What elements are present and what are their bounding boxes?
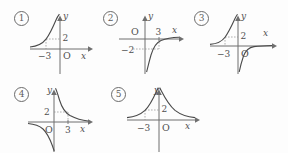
x-tick-label: −3 xyxy=(137,123,151,133)
figure-2: 2 O 3 −2 x y xyxy=(92,0,188,76)
y-tick-label: 2 xyxy=(63,33,69,43)
x-axis-label: x xyxy=(185,121,190,131)
figure-3-plot: 2 −3 O x y xyxy=(208,8,282,74)
figure-4: 4 2 O 3 x y xyxy=(0,76,100,153)
x-tick-label: −3 xyxy=(217,49,231,59)
y-tick-label: 2 xyxy=(162,104,168,114)
figure-3-marker: 3 xyxy=(194,11,209,26)
x-axis-arrowhead xyxy=(272,43,277,49)
figure-5-plot: 2 −3 O x y xyxy=(125,82,207,152)
y-axis-label: y xyxy=(153,85,160,95)
figure-4-plot: 2 O 3 x y xyxy=(26,82,98,152)
figure-5-svg: 2 −3 O x y xyxy=(125,82,207,152)
origin-label: O xyxy=(45,124,53,135)
y-axis-label: y xyxy=(147,11,154,21)
origin-label: O xyxy=(241,48,249,59)
x-tick-label: −3 xyxy=(38,51,52,61)
figure-5: 5 2 −3 O x y xyxy=(100,76,210,153)
figure-3-svg: 2 −3 O x y xyxy=(208,8,282,74)
y-axis-label: y xyxy=(240,11,247,21)
y-tick-label: −2 xyxy=(121,45,134,55)
y-tick-label: 2 xyxy=(241,31,247,41)
curve-branch-quadrant-II xyxy=(210,14,238,44)
origin-label: O xyxy=(131,26,139,37)
curve-branch-quadrant-II xyxy=(30,14,59,47)
y-axis-label: y xyxy=(62,11,69,21)
figure-2-plot: O 3 −2 x y xyxy=(117,8,187,74)
figure-1-svg: 2 −3 O x y xyxy=(28,8,94,74)
origin-label: O xyxy=(63,50,71,61)
figure-4-svg: 2 O 3 x y xyxy=(26,82,98,152)
figure-5-marker: 5 xyxy=(111,87,126,102)
x-axis-label: x xyxy=(172,25,177,35)
origin-label: O xyxy=(162,122,170,133)
x-axis-arrowhead xyxy=(195,117,200,123)
x-tick-label: 3 xyxy=(156,27,162,37)
y-tick-label: 2 xyxy=(44,107,50,117)
curve-branch-quadrant-I xyxy=(56,88,89,121)
x-axis-label: x xyxy=(80,124,85,134)
x-axis-arrowhead xyxy=(88,119,93,125)
figure-2-marker: 2 xyxy=(103,11,118,26)
figure-3: 3 2 −3 O x y xyxy=(186,0,288,76)
figure-1-marker: 1 xyxy=(14,11,29,26)
y-axis-arrowhead xyxy=(142,16,148,22)
y-axis-label: y xyxy=(46,85,53,95)
x-axis-label: x xyxy=(263,28,268,38)
curve-branch-quadrant-IV xyxy=(147,37,179,72)
figure-1: 1 2 −3 O x y xyxy=(0,0,96,76)
figure-sheet: 1 2 −3 O x y 2 xyxy=(0,0,288,153)
figure-1-plot: 2 −3 O x y xyxy=(28,8,94,74)
figure-2-svg: O 3 −2 x y xyxy=(117,8,187,74)
x-axis-arrowhead xyxy=(179,36,184,42)
x-axis-label: x xyxy=(81,51,86,61)
x-tick-label: 3 xyxy=(65,125,71,135)
